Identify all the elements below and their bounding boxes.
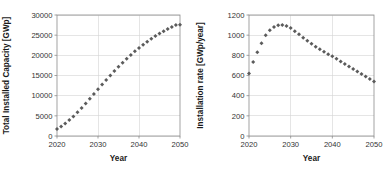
ytick-label-0-1: 5000: [36, 112, 53, 121]
yaxis-title-1: Installation rate [GWp/year]: [196, 22, 205, 129]
xtick-label-1-1: 2030: [282, 140, 299, 149]
chart-panel-total-installed-capacity: 0500010000150002000025000300002020203020…: [0, 0, 193, 184]
ytick-label-0-3: 15000: [31, 71, 52, 80]
ytick-label-0-5: 25000: [31, 31, 52, 40]
ytick-label-0-4: 20000: [31, 51, 52, 60]
figure-two-panel-chart: 0500010000150002000025000300002020203020…: [0, 0, 387, 184]
ytick-label-1-6: 1200: [228, 11, 245, 20]
xtick-label-0-0: 2020: [49, 140, 66, 149]
chart-panel-installation-rate: 0200400600800100012002020203020402050Yea…: [193, 0, 387, 184]
chart-svg-left: 0500010000150002000025000300002020203020…: [0, 0, 193, 184]
ytick-label-1-4: 800: [232, 51, 245, 60]
chart-svg-right: 0200400600800100012002020203020402050Yea…: [193, 0, 387, 184]
ytick-label-1-3: 600: [232, 71, 245, 80]
xtick-label-1-3: 2050: [366, 140, 383, 149]
ytick-label-0-6: 30000: [31, 11, 52, 20]
ytick-label-1-5: 1000: [228, 31, 245, 40]
yaxis-title-0: Total Installed Capacity [GWp]: [2, 16, 11, 134]
xaxis-title-1: Year: [303, 154, 321, 163]
ytick-label-0-2: 10000: [31, 91, 52, 100]
ytick-label-1-2: 400: [232, 91, 245, 100]
xtick-label-1-2: 2040: [324, 140, 341, 149]
xaxis-title-0: Year: [110, 154, 128, 163]
xtick-label-1-0: 2020: [241, 140, 258, 149]
xtick-label-0-1: 2030: [90, 140, 107, 149]
xtick-label-0-2: 2040: [131, 140, 148, 149]
ytick-label-1-1: 200: [232, 112, 245, 121]
xtick-label-0-3: 2050: [172, 140, 189, 149]
